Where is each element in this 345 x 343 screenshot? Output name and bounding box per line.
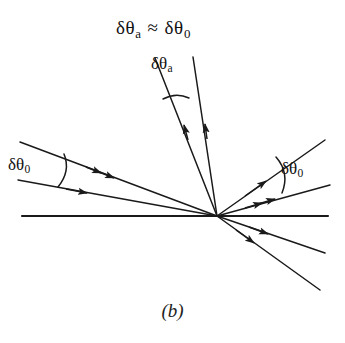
arrowhead-outgoing-below-upper (249, 227, 268, 234)
arrowhead-outgoing-upper-right (245, 181, 266, 196)
top-subscript-zero: 0 (184, 26, 191, 41)
left-angle-label: δθ0 (8, 156, 30, 176)
cone-delta: δ (151, 54, 159, 73)
cone-subscript: a (167, 62, 172, 75)
ray-outgoing-below-lower (217, 216, 320, 290)
ray-incoming-lower-left (18, 180, 217, 216)
cone-angle-label: δθa (151, 55, 173, 75)
figure-caption: (b) (0, 300, 345, 322)
top-relation-label: δθa≈δθ0 (116, 18, 191, 41)
ray-incoming-upper-left (20, 142, 217, 216)
arc-left-angle (58, 154, 66, 187)
arrowhead-incoming-upper-left-a (86, 167, 101, 173)
arrowhead-incoming-upper-left-b (99, 172, 114, 178)
arrowhead-incoming-lower-left (66, 189, 87, 193)
ray-cone-right (193, 57, 217, 216)
ray-cone-left (155, 58, 217, 216)
top-theta-2: θ (174, 17, 184, 38)
arc-cone-angle (163, 95, 189, 99)
top-delta-2: δ (165, 17, 174, 38)
top-theta: θ (125, 17, 135, 38)
right-subscript: 0 (297, 167, 303, 180)
left-subscript: 0 (24, 163, 30, 176)
top-subscript-a: a (135, 26, 141, 41)
ray-outgoing-lower-right (217, 185, 330, 216)
cone-theta: θ (159, 54, 167, 73)
right-delta: δ (281, 159, 289, 178)
figure-root: δθa≈δθ0 δθa δθ0 δθ0 (b) (0, 0, 345, 343)
ray-outgoing-below-upper (217, 216, 325, 253)
ray-outgoing-upper-right (217, 140, 325, 216)
left-delta: δ (8, 155, 16, 174)
right-theta: θ (289, 159, 297, 178)
approx-sign: ≈ (148, 17, 159, 38)
left-theta: θ (16, 155, 24, 174)
arrowhead-outgoing-below-lower (236, 230, 254, 243)
right-angle-label: δθ0 (281, 160, 303, 180)
